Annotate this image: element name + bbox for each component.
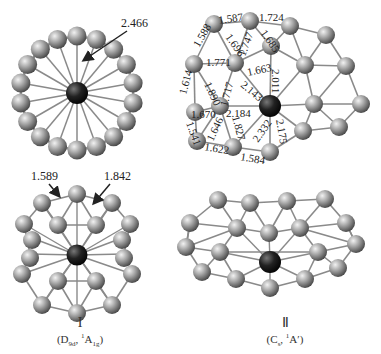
ring-atom bbox=[49, 272, 67, 290]
ring-atom bbox=[121, 215, 139, 233]
bond-label-1587: 1.587 bbox=[218, 11, 245, 26]
ring-atom bbox=[103, 296, 121, 314]
point-group-subscript: s bbox=[278, 340, 281, 348]
bond-label-1717: 1.717 bbox=[217, 80, 235, 107]
ring-atom bbox=[117, 55, 136, 74]
ring-atom bbox=[241, 194, 259, 212]
ring-atom bbox=[294, 122, 312, 140]
ring-atom bbox=[337, 57, 355, 75]
bond-label-1614: 1.614 bbox=[176, 68, 194, 95]
ring-atom bbox=[309, 243, 327, 261]
ring-atom bbox=[124, 93, 143, 112]
molecular-structures-figure: 2.466 1.589 1.842 1.587 1.724 1.588 1.69… bbox=[0, 0, 381, 354]
center-atom bbox=[259, 95, 281, 117]
ring-atom bbox=[260, 224, 278, 242]
ring-atom bbox=[329, 259, 347, 277]
ring-atom bbox=[11, 93, 30, 112]
ring-atom bbox=[193, 263, 211, 281]
ring-atom bbox=[48, 137, 67, 156]
ring-atom bbox=[103, 194, 121, 212]
ring-atom bbox=[209, 191, 227, 209]
ring-atom bbox=[296, 56, 314, 74]
ring-atom bbox=[87, 216, 105, 234]
ring-atom bbox=[23, 231, 41, 249]
structure-I-symmetry-label: (D9d, 1A1g) bbox=[45, 330, 115, 351]
ring-atom bbox=[31, 40, 50, 59]
bond-label-1541: 1.541 bbox=[184, 120, 204, 147]
ring-atom bbox=[228, 219, 246, 237]
point-group-subscript: 9d bbox=[69, 340, 76, 348]
ring-atom bbox=[124, 74, 143, 93]
ring-atom bbox=[87, 137, 106, 156]
bond-label-2175: 2.175 bbox=[274, 118, 290, 145]
ring-atom bbox=[291, 219, 309, 237]
state-symbol: A′ bbox=[289, 333, 299, 345]
ring-atom bbox=[48, 30, 67, 49]
bond-label-1771: 1.771 bbox=[206, 56, 231, 68]
ring-atom bbox=[21, 249, 39, 267]
ring-atom bbox=[352, 95, 370, 113]
ring-atom bbox=[18, 112, 37, 131]
ring-atom bbox=[227, 270, 245, 288]
structure-I-side-view bbox=[13, 185, 141, 322]
structure-II-roman-label: Ⅱ bbox=[250, 316, 320, 330]
ring-atom bbox=[261, 279, 279, 297]
ring-atom bbox=[49, 216, 67, 234]
ring-atom bbox=[123, 265, 141, 283]
ring-atom bbox=[68, 185, 86, 203]
ring-atom bbox=[68, 27, 87, 46]
ring-atom bbox=[316, 190, 334, 208]
ring-atom bbox=[181, 214, 199, 232]
ring-atom bbox=[305, 95, 323, 113]
bond-label-1842: 1.842 bbox=[104, 169, 131, 183]
bond-label-1663: 1.663 bbox=[246, 61, 273, 78]
bond-label-1747: 1.747 bbox=[236, 30, 256, 58]
ring-atom bbox=[177, 238, 195, 256]
ring-atom bbox=[117, 112, 136, 131]
ring-atom bbox=[296, 270, 314, 288]
ring-atom bbox=[241, 12, 259, 30]
point-group: D bbox=[61, 333, 69, 345]
ring-atom bbox=[115, 249, 133, 267]
state-subscript: 1g bbox=[92, 340, 99, 348]
ring-atom bbox=[337, 214, 355, 232]
ring-atom bbox=[11, 74, 30, 93]
center-atom bbox=[67, 245, 88, 266]
ring-atom bbox=[87, 30, 106, 49]
ring-atom bbox=[33, 296, 51, 314]
caption-structure-II: Ⅱ (Cs, 1A′) bbox=[250, 316, 320, 351]
ring-atom bbox=[68, 141, 87, 160]
structure-II-side-view bbox=[177, 190, 365, 297]
bond-label-2466: 2.466 bbox=[121, 16, 148, 30]
ring-atom bbox=[113, 231, 131, 249]
ring-atom bbox=[31, 127, 50, 146]
structure-II-symmetry-label: (Cs, 1A′) bbox=[250, 330, 320, 351]
ring-atom bbox=[317, 26, 335, 44]
point-group: C bbox=[270, 333, 277, 345]
ring-atom bbox=[278, 192, 296, 210]
ring-atom bbox=[104, 127, 123, 146]
ring-atom bbox=[33, 194, 51, 212]
arrow-1589 bbox=[49, 184, 59, 196]
center-atom bbox=[66, 82, 88, 104]
ring-atom bbox=[13, 265, 31, 283]
bond-label-1589: 1.589 bbox=[31, 169, 58, 183]
ring-atom bbox=[330, 118, 348, 136]
ring-atom bbox=[347, 235, 365, 253]
ring-atom bbox=[18, 55, 37, 74]
structure-I-roman-label: I bbox=[45, 316, 115, 330]
bond-label-2011: 2.011 bbox=[270, 69, 282, 93]
ring-atom bbox=[87, 272, 105, 290]
ring-atom bbox=[211, 243, 229, 261]
center-atom bbox=[259, 251, 281, 273]
structure-I-top-view bbox=[11, 27, 142, 160]
bond-label-1724: 1.724 bbox=[259, 11, 284, 23]
ring-atom bbox=[15, 215, 33, 233]
ring-atom bbox=[104, 40, 123, 59]
caption-structure-I: I (D9d, 1A1g) bbox=[45, 316, 115, 351]
